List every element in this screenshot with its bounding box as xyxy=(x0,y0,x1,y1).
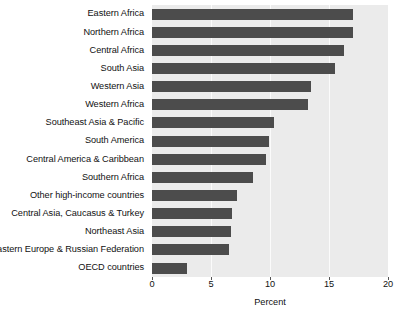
category-label: Eastern Europe & Russian Federation xyxy=(0,245,144,254)
category-label-row: Western Africa xyxy=(0,96,148,114)
value-axis: 05101520 xyxy=(152,277,388,295)
category-label-row: South America xyxy=(0,132,148,150)
bar xyxy=(152,172,253,183)
category-label: Western Africa xyxy=(85,100,144,109)
x-tick-label: 5 xyxy=(208,280,213,289)
category-label: Central America & Caribbean xyxy=(26,155,144,164)
bar xyxy=(152,99,308,110)
category-label-row: Central Asia, Caucasus & Turkey xyxy=(0,205,148,223)
category-label-row: Central America & Caribbean xyxy=(0,150,148,168)
bar-chart: Eastern AfricaNorthern AfricaCentral Afr… xyxy=(0,0,403,318)
bar-row xyxy=(152,78,388,96)
category-label: Southeast Asia & Pacific xyxy=(46,118,144,127)
bar-row xyxy=(152,23,388,41)
bar-row xyxy=(152,223,388,241)
category-label-row: Northern Africa xyxy=(0,23,148,41)
category-label: South America xyxy=(85,136,144,145)
bar xyxy=(152,9,353,20)
bar-row xyxy=(152,150,388,168)
x-tick-label: 20 xyxy=(383,280,393,289)
category-label: Central Asia, Caucasus & Turkey xyxy=(11,209,144,218)
category-label: Other high-income countries xyxy=(30,191,144,200)
category-label: Northern Africa xyxy=(83,28,144,37)
bar xyxy=(152,81,311,92)
category-label: Southern Africa xyxy=(82,173,144,182)
x-tick-label: 10 xyxy=(265,280,275,289)
bar xyxy=(152,154,266,165)
category-label: Northeast Asia xyxy=(85,227,144,236)
category-axis: Eastern AfricaNorthern AfricaCentral Afr… xyxy=(0,5,148,277)
bar-row xyxy=(152,5,388,23)
bar xyxy=(152,190,237,201)
category-label-row: Eastern Europe & Russian Federation xyxy=(0,241,148,259)
bar xyxy=(152,27,353,38)
category-label: OECD countries xyxy=(78,263,144,272)
category-label: South Asia xyxy=(101,64,144,73)
bar xyxy=(152,208,232,219)
bars-layer xyxy=(152,5,388,277)
category-label: Western Asia xyxy=(91,82,144,91)
bar-row xyxy=(152,168,388,186)
bar xyxy=(152,136,269,147)
bar xyxy=(152,45,344,56)
category-label-row: South Asia xyxy=(0,59,148,77)
bar xyxy=(152,263,187,274)
bar-row xyxy=(152,41,388,59)
bar-row xyxy=(152,96,388,114)
plot-area xyxy=(152,5,388,277)
bar-row xyxy=(152,132,388,150)
bar xyxy=(152,63,335,74)
category-label-row: Central Africa xyxy=(0,41,148,59)
category-label-row: Northeast Asia xyxy=(0,223,148,241)
x-axis-title: Percent xyxy=(152,297,388,307)
category-label: Central Africa xyxy=(90,46,144,55)
category-label-row: Western Asia xyxy=(0,78,148,96)
bar-row xyxy=(152,59,388,77)
category-label-row: Southeast Asia & Pacific xyxy=(0,114,148,132)
bar xyxy=(152,226,231,237)
bar-row xyxy=(152,259,388,277)
bar-row xyxy=(152,241,388,259)
category-label-row: OECD countries xyxy=(0,259,148,277)
bar-row xyxy=(152,205,388,223)
bar-row xyxy=(152,186,388,204)
category-label-row: Southern Africa xyxy=(0,168,148,186)
category-label-row: Other high-income countries xyxy=(0,186,148,204)
x-tick-label: 15 xyxy=(324,280,334,289)
bar xyxy=(152,117,274,128)
category-label-row: Eastern Africa xyxy=(0,5,148,23)
bar-row xyxy=(152,114,388,132)
category-label: Eastern Africa xyxy=(88,9,145,18)
x-tick-label: 0 xyxy=(149,280,154,289)
bar xyxy=(152,244,229,255)
